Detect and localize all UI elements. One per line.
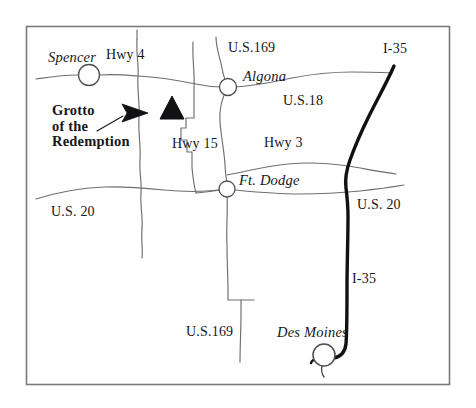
road-hwy4-south [142,228,143,258]
city-label-des-moines: Des Moines [277,325,348,340]
road-label-i35-south: I-35 [352,272,376,286]
poi-label-grotto-of-the-redemption: Grotto of the Redemption [52,103,130,150]
road-label-hwy-4: Hwy 4 [106,48,145,62]
road-label-us-169-south: U.S.169 [186,325,233,339]
city-marker-ft-dodge [219,181,235,197]
city-marker-algona [220,79,237,96]
city-label-spencer: Spencer [48,50,96,65]
poi-label-line-1: Grotto [52,103,130,119]
road-label-i35-north: I-35 [383,42,407,56]
road-label-hwy-3: Hwy 3 [264,136,303,150]
city-label-ft-dodge: Ft. Dodge [239,173,300,188]
road-label-us-20-west: U.S. 20 [51,205,95,219]
city-marker-des-moines [313,344,335,366]
road-label-us-169-north: U.S.169 [228,41,275,55]
road-label-us-20-east: U.S. 20 [357,198,401,212]
city-marker-spencer [79,65,100,86]
road-label-hwy-15: Hwy 15 [172,137,218,151]
poi-label-line-3: Redemption [52,134,130,150]
location-map: Spencer Hwy 4 U.S.169 I-35 Algona U.S.18… [0,0,476,408]
poi-label-line-2: of the [52,119,130,135]
road-label-us-18: U.S.18 [283,94,323,108]
city-label-algona: Algona [243,69,286,84]
